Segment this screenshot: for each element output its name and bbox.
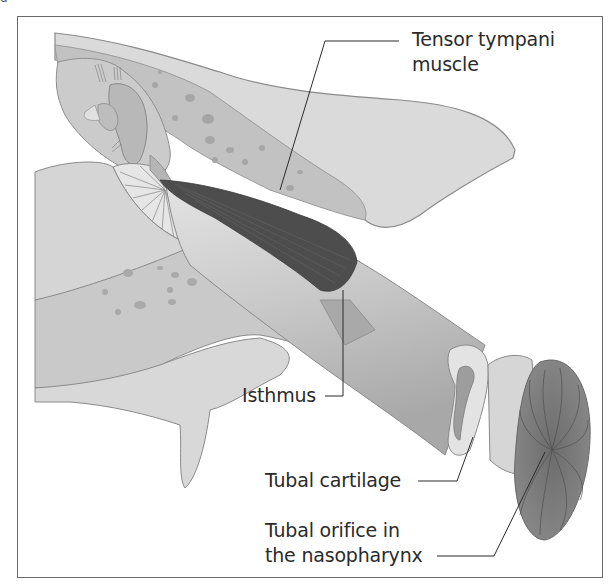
label-tubal-orifice: Tubal orifice in the nasopharynx xyxy=(265,518,423,568)
tubal-orifice xyxy=(515,360,591,540)
label-tubal-cartilage: Tubal cartilage xyxy=(265,468,401,493)
label-tensor-tympani-muscle: Tensor tympani muscle xyxy=(412,27,555,77)
label-isthmus: Isthmus xyxy=(242,383,316,408)
eustachian-tube-illustration xyxy=(0,0,612,587)
